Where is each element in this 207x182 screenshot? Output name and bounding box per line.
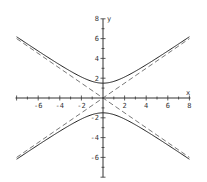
x-tick-label: -4 <box>56 102 64 110</box>
y-tick-label: 8 <box>95 15 99 23</box>
x-tick-label: -2 <box>77 102 85 110</box>
y-tick-label: 2 <box>95 75 99 83</box>
y-tick-label: 6 <box>95 35 99 43</box>
x-tick-label: 6 <box>166 102 170 110</box>
x-axis-label: x <box>186 89 190 97</box>
y-axis-label: y <box>107 15 111 23</box>
axes: -6-4-224688642-2-4-6 <box>16 15 192 177</box>
x-tick-label: 8 <box>187 102 191 110</box>
y-tick-label: -2 <box>91 114 99 122</box>
x-tick-label: -6 <box>34 102 42 110</box>
x-tick-label: 4 <box>144 102 148 110</box>
x-tick-label: 2 <box>122 102 126 110</box>
y-tick-label: -6 <box>91 154 99 162</box>
y-tick-label: -4 <box>91 134 99 142</box>
hyperbola-plot: -6-4-224688642-2-4-6 x y <box>0 0 207 182</box>
y-tick-label: 4 <box>95 55 99 63</box>
